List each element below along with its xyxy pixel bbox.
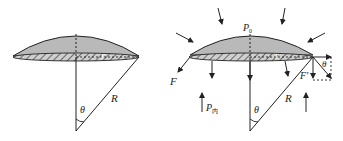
force-F-arrow <box>178 57 190 72</box>
pressure-arrow-down <box>285 61 288 76</box>
label-r-right: r <box>275 50 279 61</box>
label-theta-left: θ <box>80 104 85 115</box>
label-theta-right: θ <box>254 104 259 115</box>
pressure-arrow-outer <box>218 8 222 24</box>
pressure-arrow-outer <box>176 33 193 42</box>
label-R-right: R <box>284 92 292 104</box>
angle-arc <box>76 119 84 122</box>
pressure-arrow-outer <box>308 33 325 42</box>
label-theta-corner: θ <box>322 59 327 69</box>
pressure-arrow-outer <box>282 8 285 24</box>
label-r-left: r <box>101 50 105 61</box>
radius-R-line <box>250 57 313 131</box>
cap-dome <box>190 36 313 55</box>
label-P0: P0 <box>242 22 252 34</box>
left-spherical-cap-figure <box>13 34 139 131</box>
label-F-left: F <box>169 75 177 87</box>
label-F-prime: F′ <box>299 70 309 81</box>
angle-arc <box>250 119 258 122</box>
label-R-left: R <box>110 92 118 104</box>
diagram-canvas: r R θ P0 P内 F F′ <box>0 0 343 141</box>
label-P-inner: P内 <box>205 102 218 115</box>
radius-R-line <box>76 57 139 131</box>
